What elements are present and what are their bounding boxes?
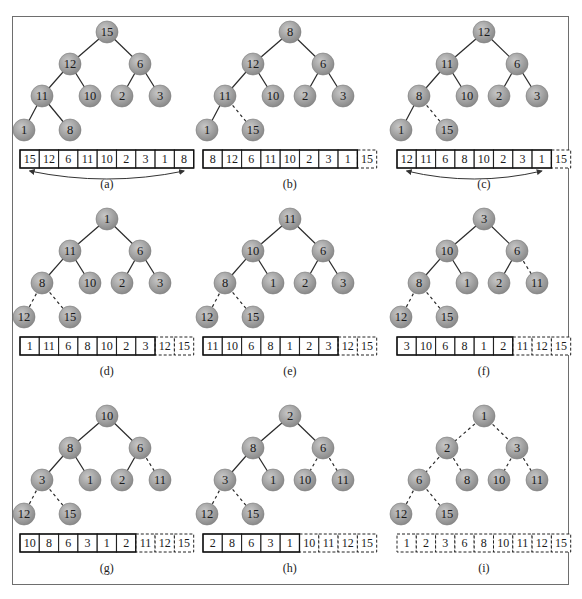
- svg-text:12: 12: [247, 57, 260, 71]
- heap-node: 6: [312, 53, 334, 75]
- array-cell-sorted: 15: [357, 337, 376, 355]
- svg-text:8: 8: [39, 276, 45, 290]
- svg-text:12: 12: [43, 152, 55, 166]
- heap-node: 1: [196, 119, 218, 141]
- svg-text:2: 2: [500, 339, 506, 353]
- svg-text:8: 8: [229, 536, 235, 550]
- svg-text:10: 10: [420, 339, 432, 353]
- svg-text:1: 1: [162, 152, 168, 166]
- svg-text:11: 11: [36, 89, 48, 103]
- array-cell: 2: [203, 534, 222, 552]
- array-cell-sorted: 15: [357, 534, 376, 552]
- svg-text:2: 2: [496, 276, 502, 290]
- svg-text:6: 6: [137, 244, 143, 258]
- array-cell-sorted: 15: [551, 150, 570, 168]
- svg-text:3: 3: [85, 536, 91, 550]
- svg-text:12: 12: [226, 152, 238, 166]
- heap-node: 12: [390, 306, 412, 328]
- svg-text:1: 1: [481, 409, 487, 423]
- heap-node: 8: [59, 437, 81, 459]
- svg-text:2: 2: [123, 536, 129, 550]
- svg-text:3: 3: [157, 89, 163, 103]
- heap-node: 3: [506, 437, 528, 459]
- svg-text:1: 1: [204, 123, 210, 137]
- svg-text:6: 6: [320, 57, 326, 71]
- heap-node: 10: [294, 469, 316, 491]
- array-cell: 3: [513, 150, 532, 168]
- panel-label: (f): [478, 364, 490, 378]
- array-cell: 8: [39, 534, 58, 552]
- svg-text:12: 12: [18, 507, 31, 521]
- svg-text:2: 2: [306, 152, 312, 166]
- svg-text:11: 11: [140, 536, 152, 550]
- array-cell-sorted: 2: [416, 534, 435, 552]
- svg-text:15: 15: [361, 536, 373, 550]
- heap-node: 11: [149, 469, 171, 491]
- array-cell-sorted: 15: [551, 534, 570, 552]
- svg-text:3: 3: [442, 536, 448, 550]
- array-cell: 11: [261, 150, 280, 168]
- heap-node: 3: [149, 85, 171, 107]
- panel-f: 31068121112153106812111215(f): [390, 208, 571, 378]
- array-cell-sorted: 12: [155, 534, 174, 552]
- svg-text:15: 15: [555, 152, 567, 166]
- array-cell-sorted: 8: [474, 534, 493, 552]
- svg-text:1: 1: [270, 473, 276, 487]
- svg-text:2: 2: [119, 473, 125, 487]
- heap-node: 6: [312, 437, 334, 459]
- heap-node: 2: [436, 437, 458, 459]
- array-cell: 8: [455, 337, 474, 355]
- heap-node: 6: [129, 240, 151, 262]
- heap-node: 2: [279, 405, 301, 427]
- heap-node: 1: [79, 469, 101, 491]
- array-cell: 8: [261, 337, 280, 355]
- svg-text:1: 1: [87, 473, 93, 487]
- array-cell: 12: [222, 150, 241, 168]
- heap-node: 6: [312, 240, 334, 262]
- svg-text:12: 12: [201, 310, 214, 324]
- panel-e: 11106812312151110681231215(e): [196, 208, 377, 378]
- svg-text:1: 1: [398, 123, 404, 137]
- heap-node: 1: [473, 405, 495, 427]
- svg-text:2: 2: [119, 276, 125, 290]
- svg-text:10: 10: [461, 89, 474, 103]
- svg-text:15: 15: [247, 123, 260, 137]
- panel-label: (i): [478, 561, 489, 575]
- svg-text:3: 3: [519, 152, 525, 166]
- heap-node: 10: [79, 272, 101, 294]
- heap-node: 6: [506, 240, 528, 262]
- array-cell-sorted: 11: [513, 337, 532, 355]
- heap-node: 12: [196, 306, 218, 328]
- svg-text:11: 11: [531, 473, 543, 487]
- array-cell: 10: [97, 150, 116, 168]
- svg-text:15: 15: [441, 123, 454, 137]
- heap-node: 8: [214, 272, 236, 294]
- array-cell: 6: [59, 150, 78, 168]
- array-cell-sorted: 15: [174, 534, 193, 552]
- array-cell: 10: [474, 150, 493, 168]
- heap-node: 2: [111, 85, 133, 107]
- svg-text:1: 1: [404, 536, 410, 550]
- svg-text:11: 11: [82, 152, 94, 166]
- panel-h: 28631101112152863110111215(h): [196, 405, 377, 575]
- svg-text:15: 15: [361, 152, 373, 166]
- array-cell: 2: [117, 337, 136, 355]
- svg-text:11: 11: [517, 536, 529, 550]
- svg-text:2: 2: [287, 409, 293, 423]
- svg-text:3: 3: [142, 339, 148, 353]
- array-cell-sorted: 6: [455, 534, 474, 552]
- svg-text:12: 12: [395, 310, 408, 324]
- heap-node: 11: [279, 208, 301, 230]
- svg-text:8: 8: [416, 89, 422, 103]
- array-cell: 2: [117, 150, 136, 168]
- heap-node: 12: [390, 503, 412, 525]
- svg-text:6: 6: [442, 339, 448, 353]
- svg-text:8: 8: [464, 473, 470, 487]
- svg-text:2: 2: [444, 441, 450, 455]
- panel-label: (e): [283, 364, 296, 378]
- heap-node: 8: [59, 119, 81, 141]
- svg-text:15: 15: [247, 310, 260, 324]
- heap-node: 8: [456, 469, 478, 491]
- array-cell: 3: [319, 337, 338, 355]
- svg-text:8: 8: [462, 339, 468, 353]
